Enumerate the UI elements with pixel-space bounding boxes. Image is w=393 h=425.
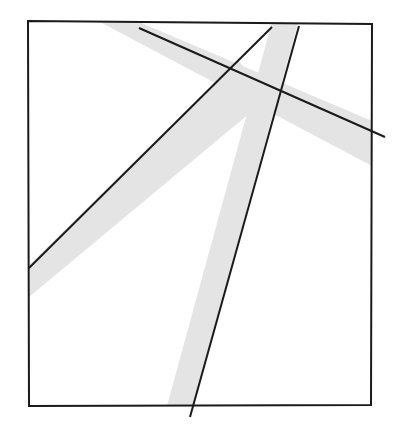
figure-canvas: [0, 0, 393, 425]
figure-svg: [0, 0, 393, 425]
